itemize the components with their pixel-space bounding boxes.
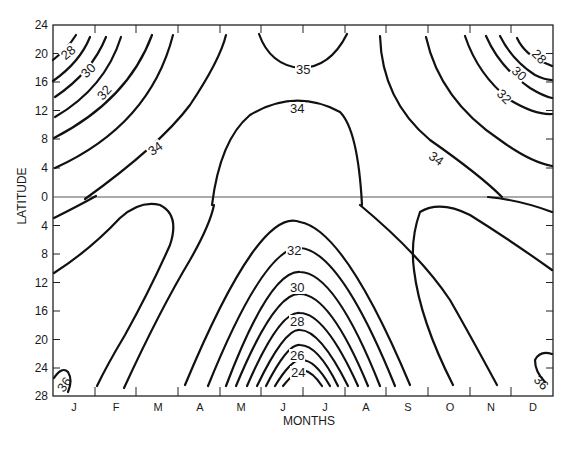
contour-label: 35 — [295, 63, 311, 76]
x-tick-label: N — [481, 401, 501, 413]
y-tick-label: 12 — [22, 105, 48, 117]
x-tick-label: F — [106, 401, 126, 413]
x-tick-label: D — [523, 401, 543, 413]
y-tick-label: 16 — [22, 76, 48, 88]
y-tick-label: 20 — [22, 334, 48, 346]
contour-label: 34 — [289, 102, 305, 115]
contour-ul-34 — [85, 35, 226, 199]
y-tick-label: 8 — [22, 133, 48, 145]
x-axis-title: MONTHS — [283, 415, 335, 427]
y-tick-label: 12 — [22, 277, 48, 289]
x-tick-label: J — [64, 401, 84, 413]
contour-ur-34 — [380, 36, 502, 197]
contour-label: 24 — [290, 366, 306, 379]
contour-ll-33 — [54, 204, 173, 386]
y-tick-label: 24 — [22, 362, 48, 374]
contour-lr-33b — [360, 205, 497, 385]
contour-label: 32 — [286, 244, 302, 257]
contour-lines — [53, 34, 552, 392]
contour-label: 28 — [289, 315, 305, 328]
x-tick-label: J — [315, 401, 335, 413]
contour-lr-34 — [488, 197, 552, 212]
y-tick-label: 28 — [22, 390, 48, 402]
contour-ll-33b — [124, 205, 214, 388]
x-tick-label: O — [440, 401, 460, 413]
y-tick-label: 16 — [22, 305, 48, 317]
contour-34-center — [212, 101, 362, 205]
y-tick-label: 24 — [22, 19, 48, 31]
y-tick-label: 8 — [22, 248, 48, 260]
x-tick-label: J — [273, 401, 293, 413]
x-tick-label: M — [148, 401, 168, 413]
x-ticks — [95, 25, 511, 396]
y-tick-label: 20 — [22, 48, 48, 60]
x-tick-label: S — [398, 401, 418, 413]
contour-label: 30 — [289, 281, 305, 294]
x-tick-label: A — [190, 401, 210, 413]
contour-label: 26 — [289, 349, 305, 362]
x-tick-label: A — [356, 401, 376, 413]
y-axis-title: LATITUDE — [16, 166, 28, 226]
contour-ll-34 — [54, 196, 96, 218]
x-tick-label: M — [231, 401, 251, 413]
